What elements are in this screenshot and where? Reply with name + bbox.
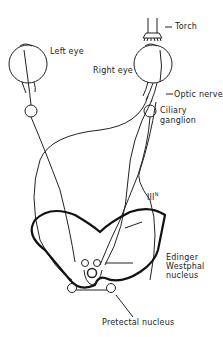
- right-eye-label: Right eye: [93, 66, 133, 75]
- ciliary-ganglion-label-1: Ciliary: [160, 106, 187, 115]
- left-eye-icon: [9, 44, 47, 93]
- edinger-label-2: Westphal: [166, 262, 205, 271]
- aqueduct: [88, 269, 97, 278]
- edinger-westphal-nucleus-left: [82, 260, 89, 267]
- left-ciliary-ganglion: [25, 105, 37, 117]
- pretectal-nucleus-right: [107, 284, 116, 293]
- pupillary-reflex-diagram: [0, 0, 223, 337]
- neural-pathways: [28, 80, 156, 280]
- pretectal-nucleus-left: [68, 284, 77, 293]
- edinger-westphal-nucleus-right: [94, 260, 101, 267]
- third-nerve-label: IIIN: [147, 190, 159, 202]
- edinger-label-1: Edinger: [166, 253, 198, 262]
- ciliary-ganglion-label-2: ganglion: [160, 116, 196, 125]
- pretectal-nucleus-label: Pretectal nucleus: [102, 318, 174, 327]
- torch-label: Torch: [175, 22, 197, 31]
- right-eye-icon: [134, 44, 172, 102]
- optic-nerve-label: Optic nerve: [174, 90, 223, 99]
- torch-icon: [143, 18, 172, 41]
- edinger-label-3: nucleus: [166, 271, 198, 280]
- left-eye-label: Left eye: [50, 47, 84, 56]
- midbrain-outline: [32, 209, 165, 287]
